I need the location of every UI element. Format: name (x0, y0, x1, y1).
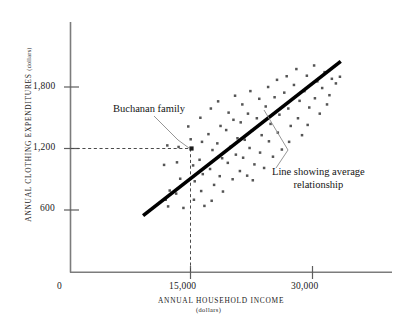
scatter-point (278, 113, 281, 116)
scatter-point (218, 175, 221, 178)
scatter-point (210, 107, 213, 110)
scatter-point (203, 205, 206, 208)
scatter-point (193, 199, 196, 202)
scatter-point (209, 168, 212, 171)
scatter-point (306, 74, 309, 77)
scatter-point (210, 200, 213, 203)
scatter-point (211, 149, 214, 152)
scatter-point (227, 162, 230, 165)
scatter-point (222, 190, 225, 193)
scatter-point (168, 189, 171, 192)
x-tick-label-15000: 15,000 (169, 281, 196, 291)
scatter-point (189, 138, 192, 141)
scatter-point (276, 79, 279, 82)
scatter-point (246, 174, 249, 177)
scatter-point (166, 144, 169, 147)
scatter-point (199, 117, 202, 120)
trend-line-annotation-line1: Line showing average (272, 166, 365, 179)
scatter-point (227, 111, 230, 114)
y-axis-title-units: (dollars) (26, 47, 32, 70)
scatter-point (241, 103, 244, 106)
scatter-point (298, 100, 301, 103)
scatter-point (263, 167, 266, 170)
scatter-point (258, 98, 261, 101)
y-axis-title-main: ANNUAL CLOTHING EXPENDITURES (24, 73, 33, 221)
chart-canvas (0, 0, 397, 325)
y-tick-label-600: 600 (40, 203, 55, 213)
scatter-point (256, 117, 259, 120)
scatter-point (267, 86, 270, 89)
scatter-point (289, 125, 292, 128)
scatter-point (264, 105, 267, 108)
scatter-point (308, 106, 311, 109)
trend-line-annotation: Line showing average relationship (272, 166, 365, 191)
scatter-point (167, 205, 170, 208)
scatter-point (163, 164, 166, 167)
x-axis-title: ANNUAL HOUSEHOLD INCOME (158, 296, 284, 305)
scatter-point (201, 141, 204, 144)
scatter-plot-figure: 1,800 1,200 600 0 15,000 30,000 ANNUAL C… (0, 0, 397, 325)
scatter-point (193, 180, 196, 183)
buchanan-family-annotation: Buchanan family (113, 103, 185, 116)
scatter-point (219, 125, 222, 128)
scatter-point (179, 177, 182, 180)
scatter-point (249, 90, 252, 93)
scatter-point (297, 117, 300, 120)
scatter-point (319, 112, 322, 115)
reference-lines-group (71, 149, 191, 273)
scatter-point (335, 82, 338, 85)
scatter-point (285, 75, 288, 78)
scatter-point (313, 64, 316, 67)
scatter-point (192, 164, 195, 167)
scatter-point (306, 124, 309, 127)
scatter-point (260, 134, 263, 137)
buchanan-leader-line (154, 116, 189, 148)
scatter-point (232, 119, 235, 122)
scatter-point (213, 184, 216, 187)
scatter-point (328, 94, 331, 97)
x-tick-label-0: 0 (57, 281, 62, 291)
scatter-point (301, 134, 304, 137)
scatter-point (221, 157, 224, 160)
scatter-point (198, 159, 201, 162)
scatter-point (225, 129, 228, 132)
scatter-point (253, 163, 256, 166)
scatter-point (187, 125, 190, 128)
scatter-point (239, 121, 242, 124)
y-tick-label-1800: 1,800 (33, 81, 55, 91)
scatter-point (259, 151, 262, 154)
average-relationship-line (143, 61, 341, 215)
scatter-point (217, 100, 220, 103)
scatter-point (326, 103, 329, 106)
scatter-point (239, 170, 242, 173)
scatter-point (200, 190, 203, 193)
scatter-point (281, 148, 284, 151)
scatter-point (287, 107, 290, 110)
scatter-point (339, 76, 342, 79)
trend-line-annotation-line2: relationship (272, 179, 365, 192)
scatter-point (248, 147, 251, 150)
scatter-point (288, 141, 291, 144)
scatter-point (331, 78, 334, 81)
buchanan-family-point (189, 146, 193, 150)
scatter-point (321, 87, 324, 90)
scatter-point (216, 142, 219, 145)
x-tick-label-30000: 30,000 (291, 281, 318, 291)
scatter-point (235, 153, 238, 156)
scatter-point (273, 96, 276, 99)
scatter-point (177, 146, 180, 149)
y-tick-label-1200: 1,200 (33, 142, 55, 152)
scatter-point (314, 97, 317, 100)
x-axis-title-units: (dollars) (196, 306, 221, 313)
scatter-point (242, 156, 245, 159)
scatter-point (268, 140, 271, 143)
scatter-point (283, 91, 286, 94)
scatter-point (272, 155, 275, 158)
scatter-point (182, 207, 185, 210)
scatter-point (252, 179, 255, 182)
scatter-point (231, 178, 234, 181)
scatter-point (295, 68, 298, 71)
scatter-point (234, 94, 237, 97)
scatter-point (202, 173, 205, 176)
y-axis-title: ANNUAL CLOTHING EXPENDITURES (dollars) (24, 45, 33, 225)
